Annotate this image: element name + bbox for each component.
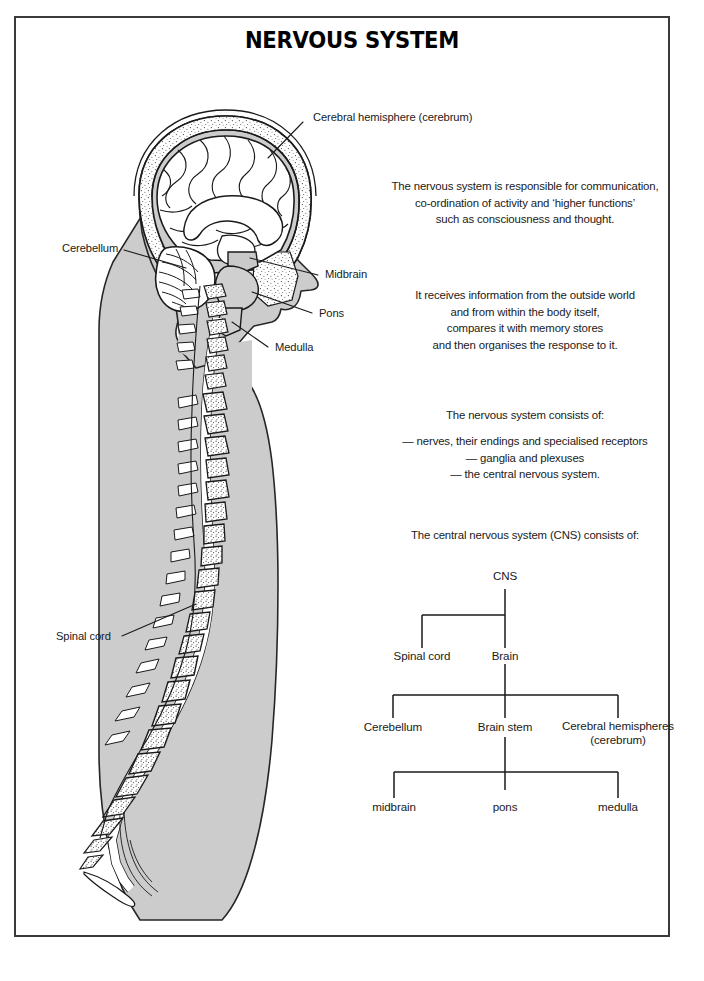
tree-node-cerebral-hemispheres: Cerebral hemispheres (cerebrum)	[557, 719, 679, 747]
tree-node-cns: CNS	[475, 568, 535, 583]
paragraph1-line2: co-ordination of activity and ‘higher fu…	[360, 195, 690, 212]
paragraph2-line1: It receives information from the outside…	[360, 287, 690, 304]
label-midbrain: Midbrain	[325, 268, 367, 280]
paragraph2-line2: and from within the body itself,	[360, 304, 690, 321]
paragraph-responsibility: The nervous system is responsible for co…	[360, 178, 690, 228]
label-cerebral-hemisphere: Cerebral hemisphere (cerebrum)	[313, 111, 472, 123]
tree-node-spinal-cord: Spinal cord	[372, 648, 472, 663]
paragraph-consists-list: — nerves, their endings and specialised …	[360, 433, 690, 483]
paragraph2-line4: and then organises the response to it.	[360, 337, 690, 354]
tree-node-pons: pons	[470, 799, 540, 814]
paragraph-consists-heading: The nervous system consists of:	[360, 407, 690, 424]
paragraph2-line3: compares it with memory stores	[360, 320, 690, 337]
cerebral-hemispheres-line1: Cerebral hemispheres	[562, 719, 674, 732]
label-pons: Pons	[319, 307, 344, 319]
paragraph4-heading: The central nervous system (CNS) consist…	[360, 527, 690, 544]
list-item-nerves: — nerves, their endings and specialised …	[360, 433, 690, 450]
page-title: NERVOUS SYSTEM	[28, 27, 676, 53]
paragraph-cns-heading: The central nervous system (CNS) consist…	[360, 527, 690, 544]
page-root: NERVOUS SYSTEM	[0, 0, 704, 981]
paragraph3-heading: The nervous system consists of:	[360, 407, 690, 424]
list-item-ganglia: — ganglia and plexuses	[360, 450, 690, 467]
tree-node-midbrain: midbrain	[349, 799, 439, 814]
label-spinal-cord: Spinal cord	[56, 630, 111, 642]
cerebral-hemispheres-line2: (cerebrum)	[590, 733, 646, 746]
tree-node-cerebellum: Cerebellum	[343, 719, 443, 734]
list-item-cns: — the central nervous system.	[360, 466, 690, 483]
tree-node-brain-stem: Brain stem	[460, 719, 550, 734]
label-cerebellum: Cerebellum	[62, 242, 118, 254]
paragraph1-line3: such as consciousness and thought.	[360, 211, 690, 228]
label-medulla: Medulla	[275, 341, 313, 353]
tree-node-medulla: medulla	[578, 799, 658, 814]
tree-node-brain: Brain	[465, 648, 545, 663]
paragraph-information: It receives information from the outside…	[360, 287, 690, 353]
paragraph1-line1: The nervous system is responsible for co…	[360, 178, 690, 195]
